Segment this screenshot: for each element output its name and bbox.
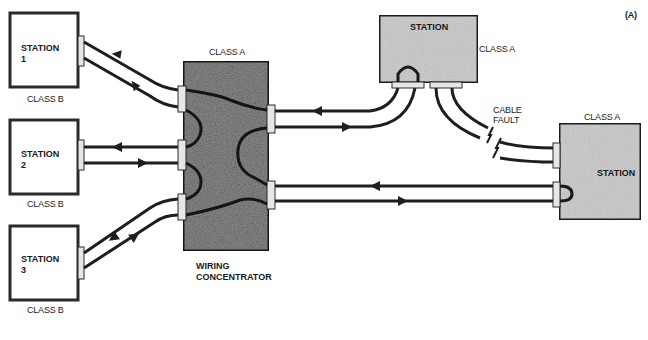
concentrator-label: WIRINGCONCENTRATOR [196, 261, 272, 283]
cable-fault-line1: CABLE [493, 105, 522, 115]
station-2-label: STATION2 [21, 149, 59, 171]
right-station-class: CLASS A [584, 112, 620, 122]
arrow-icon [112, 142, 122, 152]
cable-fault-label: CABLEFAULT [493, 105, 522, 125]
station-name: STATION [21, 149, 59, 159]
concentrator-label-line2: CONCENTRATOR [196, 272, 272, 282]
arrow-icon [138, 158, 148, 168]
cable-station-3 [84, 199, 178, 268]
arrow-icon [398, 196, 408, 206]
station-1-class: CLASS B [27, 94, 64, 104]
top-station-name: STATION [410, 22, 448, 33]
cable-concentrator-to-top-station [275, 88, 415, 127]
network-diagram [0, 0, 648, 340]
figure-label: (A) [625, 10, 637, 20]
cable-fault-line2: FAULT [493, 115, 519, 125]
cable-station-1 [84, 42, 178, 107]
station-name: STATION [21, 254, 59, 264]
station-name: STATION [21, 43, 59, 53]
wiring-concentrator [178, 61, 275, 251]
top-station-class: CLASS A [479, 44, 515, 54]
arrow-icon [112, 47, 125, 59]
station-2-class: CLASS B [27, 199, 64, 209]
cable-station-2 [84, 147, 178, 163]
cable-fault-break-icon [487, 127, 501, 158]
station-number: 1 [21, 54, 26, 64]
arrow-icon [312, 106, 322, 116]
cable-concentrator-to-right-station [275, 186, 555, 201]
right-station-name: STATION [597, 168, 635, 179]
station-1-label: STATION1 [21, 43, 59, 65]
concentrator-label-line1: WIRING [196, 261, 230, 271]
station-number: 2 [21, 160, 26, 170]
arrow-icon [342, 122, 352, 132]
station-number: 3 [21, 265, 26, 275]
station-3-label: STATION3 [21, 254, 59, 276]
station-3-class: CLASS B [27, 305, 64, 315]
arrow-icon [370, 181, 380, 191]
concentrator-class: CLASS A [209, 47, 245, 57]
